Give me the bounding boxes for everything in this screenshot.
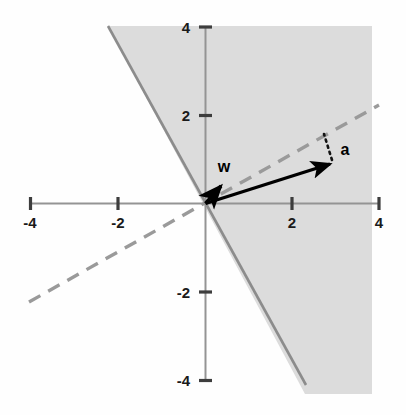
halfspace-shading	[108, 26, 372, 394]
x-tick-label-2: 2	[288, 214, 296, 231]
y-tick-label-2: 2	[182, 107, 190, 124]
y-tick-label--4: -4	[177, 372, 191, 389]
x-tick-label--4: -4	[23, 214, 37, 231]
x-tick-label-4: 4	[375, 214, 384, 231]
vector-label-a: a	[341, 141, 350, 158]
vector-label-w: w	[217, 158, 231, 175]
plot-canvas: -4 -2 2 4 4 2 -2 -4 w a	[0, 0, 406, 415]
x-tick-label--2: -2	[111, 214, 124, 231]
y-tick-label--2: -2	[177, 284, 190, 301]
vector-plot-figure: -4 -2 2 4 4 2 -2 -4 w a	[0, 0, 406, 415]
y-tick-label-4: 4	[182, 19, 191, 36]
